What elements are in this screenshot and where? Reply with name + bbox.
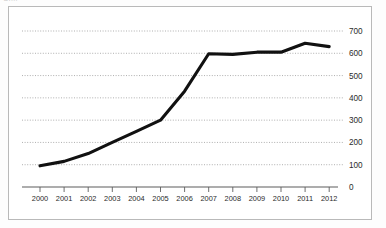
x-tick-label: 2010	[273, 194, 289, 203]
x-tick-label: 2009	[249, 194, 265, 203]
y-tick-labels: 0100200300400500600700	[349, 27, 363, 192]
x-tick-label: 2008	[225, 194, 241, 203]
x-tick-label: 2005	[152, 194, 168, 203]
x-tick-label: 2011	[297, 194, 313, 203]
x-tick-label: 2000	[32, 194, 48, 203]
x-tick-labels: 2000200120022003200420052006200720082009…	[32, 194, 338, 203]
x-tick-label: 2003	[104, 194, 120, 203]
y-tick-label: 300	[349, 116, 363, 125]
y-tick-label: 700	[349, 27, 363, 36]
data-line-series-1	[40, 43, 329, 166]
data-series	[40, 43, 329, 166]
y-tick-label: 0	[349, 183, 354, 192]
y-tick-label: 600	[349, 49, 363, 58]
y-tick-label: 100	[349, 161, 363, 170]
x-tick-label: 2006	[176, 194, 192, 203]
x-tick-label: 2004	[128, 194, 144, 203]
x-tick-label: 2002	[80, 194, 96, 203]
chart-canvas: 0100200300400500600700 20002001200220032…	[0, 0, 386, 228]
y-tick-label: 500	[349, 72, 363, 81]
x-tick-label: 2012	[321, 194, 337, 203]
gridlines	[22, 31, 344, 165]
x-tick-marks	[40, 187, 329, 192]
y-tick-label: 400	[349, 94, 363, 103]
line-chart: 0100200300400500600700 20002001200220032…	[0, 0, 386, 228]
y-tick-label: 200	[349, 138, 363, 147]
x-tick-label: 2001	[56, 194, 72, 203]
x-tick-label: 2007	[200, 194, 216, 203]
